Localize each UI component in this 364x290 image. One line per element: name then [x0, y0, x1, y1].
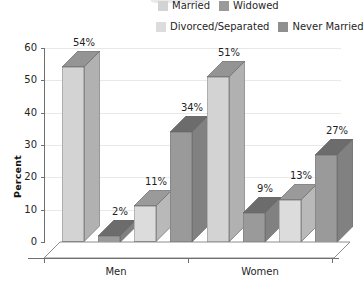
bar-value-label: 27%	[317, 125, 357, 136]
legend-item-never-married[interactable]: Never Married	[278, 21, 363, 32]
bar-men-never-married[interactable]	[170, 116, 208, 242]
legend-label-married: Married	[172, 0, 210, 11]
bar-women-never-married[interactable]	[315, 139, 353, 242]
plot-area: Percent 0102030405060 54%2%11%34%51%9%13…	[0, 40, 350, 290]
bar-women-married[interactable]	[207, 61, 245, 242]
legend-swatch-married	[158, 1, 168, 11]
bar-men-divorced-separated[interactable]	[134, 190, 172, 242]
legend-label-never-married: Never Married	[292, 21, 363, 32]
bar-value-label: 54%	[64, 37, 104, 48]
x-tick-label-men: Men	[81, 266, 151, 277]
legend-swatch-widowed	[219, 1, 229, 11]
bar-men-married[interactable]	[62, 51, 100, 242]
legend-item-widowed[interactable]: Widowed	[219, 0, 279, 11]
x-tick-mark-1	[188, 258, 189, 263]
legend-label-divorced-separated: Divorced/Separated	[170, 21, 269, 32]
legend-item-married[interactable]: Married	[158, 0, 210, 11]
bar-value-label: 34%	[172, 102, 212, 113]
legend-label-widowed: Widowed	[233, 0, 279, 11]
legend-swatch-never-married	[278, 22, 288, 32]
legend-row-1: Divorced/Separated Never Married	[156, 21, 364, 32]
x-tick-mark-2	[332, 258, 333, 263]
bar-series-group: 54%2%11%34%51%9%13%27%	[0, 40, 350, 290]
x-tick-mark-0	[44, 258, 45, 263]
legend-row-0: Married Widowed	[158, 0, 279, 11]
legend-swatch-divorced-separated	[156, 22, 166, 32]
bar-women-widowed[interactable]	[243, 197, 281, 242]
x-tick-label-women: Women	[225, 266, 295, 277]
bar-women-divorced-separated[interactable]	[279, 184, 317, 242]
chart-legend: Married Widowed Divorced/Separated Never…	[0, 0, 350, 40]
x-axis-line	[28, 258, 339, 259]
bar-value-label: 51%	[209, 47, 249, 58]
legend-item-divorced-separated[interactable]: Divorced/Separated	[156, 21, 269, 32]
bar-men-widowed[interactable]	[98, 220, 136, 242]
